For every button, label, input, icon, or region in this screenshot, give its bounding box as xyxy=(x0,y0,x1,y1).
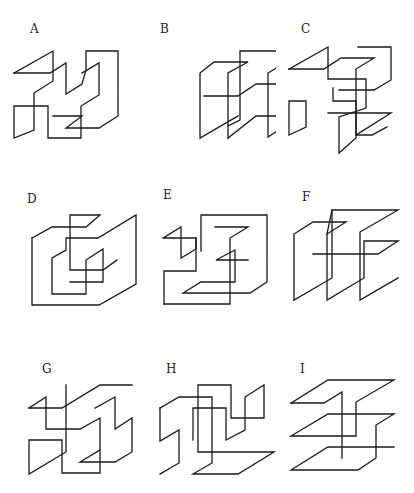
figure-drawing xyxy=(276,170,414,335)
figure-path xyxy=(289,101,306,135)
figure-c: C xyxy=(276,0,414,165)
figure-drawing xyxy=(0,0,138,165)
figure-path xyxy=(200,62,248,138)
figure-path xyxy=(160,385,274,474)
figure-path xyxy=(164,238,196,304)
figure-drawing xyxy=(138,0,276,165)
figure-path xyxy=(339,47,391,90)
figure-path xyxy=(327,210,398,300)
figure-drawing xyxy=(0,340,138,493)
figure-d: D xyxy=(0,170,138,335)
figure-drawing xyxy=(0,170,138,335)
figure-a: A xyxy=(0,0,138,165)
figure-path xyxy=(294,222,398,300)
figure-path xyxy=(163,227,196,258)
figure-drawing xyxy=(138,170,276,335)
figure-path xyxy=(291,392,342,458)
figure-f: F xyxy=(276,170,414,335)
figure-drawing xyxy=(276,0,414,165)
figure-path xyxy=(294,210,332,300)
figure-i: I xyxy=(276,340,414,493)
figure-drawing xyxy=(138,340,276,493)
figure-b: B xyxy=(138,0,276,165)
figure-g: G xyxy=(0,340,138,493)
figure-drawing xyxy=(276,340,414,493)
figure-path xyxy=(80,397,132,462)
figure-path xyxy=(328,113,391,135)
figure-path xyxy=(32,215,136,305)
figure-path xyxy=(289,58,387,135)
figure-e: E xyxy=(138,170,276,335)
figure-path xyxy=(32,215,117,270)
figure-path xyxy=(289,47,366,153)
figure-path xyxy=(14,51,118,128)
figure-h: H xyxy=(138,340,276,493)
figure-path xyxy=(228,51,276,137)
figure-path xyxy=(29,385,132,408)
figure-path xyxy=(160,408,179,474)
figure-path xyxy=(29,385,100,474)
